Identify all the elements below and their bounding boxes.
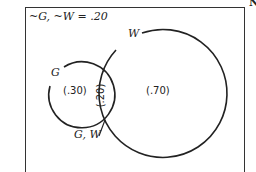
complement-label: ~G, ~W = .20 xyxy=(29,10,108,23)
set-g-label: G xyxy=(51,66,60,79)
intersection-value: (.20) xyxy=(95,84,106,108)
venn-circles xyxy=(0,0,256,172)
w-only-value: (.70) xyxy=(146,85,170,96)
set-w-label: W xyxy=(128,27,139,40)
intersection-label: G, W xyxy=(74,128,101,141)
g-only-value: (.30) xyxy=(63,85,87,96)
